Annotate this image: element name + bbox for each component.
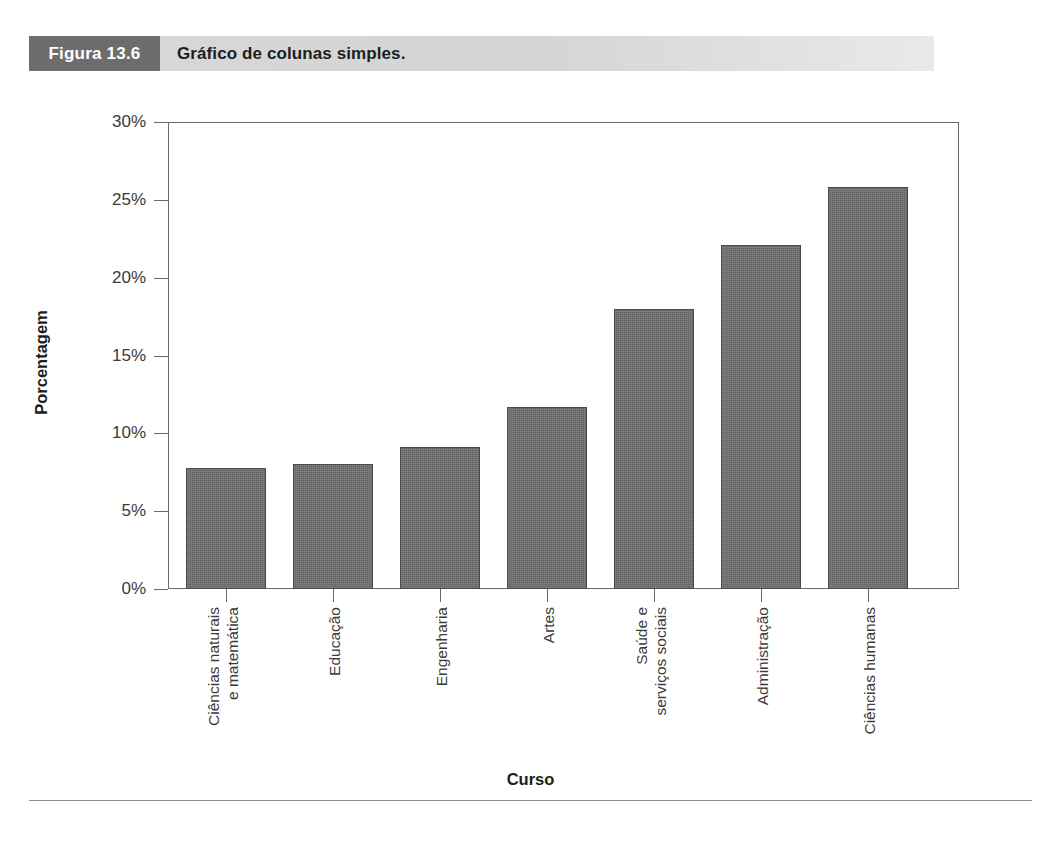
- y-axis-title: Porcentagem: [32, 283, 51, 443]
- x-axis-category-label: Administração: [753, 607, 772, 772]
- x-axis-tick: [333, 589, 334, 602]
- x-axis-category-label: Educação: [325, 607, 344, 772]
- x-axis-category-label: Engenharia: [432, 607, 451, 772]
- x-axis-category-label: Ciências humanas: [860, 607, 879, 772]
- y-axis-tick-label: 5%: [86, 501, 146, 521]
- x-axis-category-label: Saúde e serviços sociais: [632, 607, 670, 772]
- bar-column: [507, 407, 587, 589]
- y-axis-tick-label: 30%: [86, 112, 146, 132]
- x-axis-tick: [440, 589, 441, 602]
- y-axis-tick: [154, 589, 168, 590]
- y-axis-tick: [154, 122, 168, 123]
- y-axis-tick-label: 0%: [86, 579, 146, 599]
- x-axis-title: Curso: [0, 770, 1061, 789]
- x-axis-tick: [868, 589, 869, 602]
- page-bottom-rule: [29, 800, 1032, 801]
- x-axis-category-label: Ciências naturais e matemática: [204, 607, 242, 772]
- bar-column: [828, 187, 908, 589]
- y-axis-tick-label: 25%: [86, 190, 146, 210]
- y-axis-tick-label: 20%: [86, 268, 146, 288]
- y-axis-tick: [154, 278, 168, 279]
- x-axis-tick: [654, 589, 655, 602]
- bar-column: [293, 464, 373, 589]
- bar-column: [614, 309, 694, 589]
- bar-column: [400, 447, 480, 589]
- y-axis-tick: [154, 200, 168, 201]
- y-axis-tick-label: 10%: [86, 423, 146, 443]
- y-axis-tick: [154, 356, 168, 357]
- x-axis-tick: [547, 589, 548, 602]
- x-axis-category-label: Artes: [539, 607, 558, 772]
- y-axis-tick-label: 15%: [86, 346, 146, 366]
- y-axis-labels: 0%5%10%15%20%25%30%: [86, 0, 146, 841]
- bar-chart: 0%5%10%15%20%25%30% Porcentagem Ciências…: [0, 0, 1061, 841]
- x-axis-tick: [761, 589, 762, 602]
- y-axis-tick: [154, 433, 168, 434]
- bar-column: [186, 468, 266, 589]
- bar-column: [721, 245, 801, 589]
- bars-layer: [168, 122, 959, 589]
- y-axis-tick: [154, 511, 168, 512]
- x-axis-tick: [226, 589, 227, 602]
